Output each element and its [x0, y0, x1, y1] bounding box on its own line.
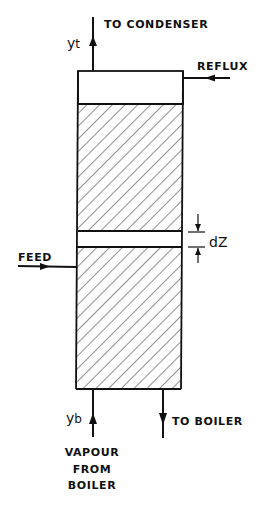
y-top-symbol: yt — [67, 35, 80, 51]
vapour-label-line2: FROM — [73, 463, 112, 476]
arrow-down-icon — [159, 413, 167, 425]
upper-packing — [78, 104, 182, 231]
to-condenser-label: TO CONDENSER — [104, 18, 208, 31]
vapour-label-line1: VAPOUR — [65, 446, 120, 459]
reflux-label: REFLUX — [197, 60, 248, 73]
arrow-up-icon — [195, 248, 201, 255]
feed-label: FEED — [18, 251, 52, 264]
dz-label: dZ — [209, 234, 227, 250]
y-bottom-symbol: yb — [66, 410, 82, 426]
top-vapour-outlet: TO CONDENSER yt — [67, 17, 208, 71]
arrow-down-icon — [195, 224, 201, 231]
bottom-vapour-inlet: yb VAPOUR FROM BOILER — [65, 389, 120, 492]
bottom-liquid-outlet: TO BOILER — [159, 389, 243, 438]
reflux-inlet: REFLUX — [183, 60, 248, 82]
arrow-left-icon — [205, 75, 215, 82]
column-top-space — [78, 71, 183, 104]
column — [76, 71, 183, 389]
differential-element-dz — [78, 231, 182, 247]
vapour-label-line3: BOILER — [68, 479, 116, 492]
arrow-up-icon — [89, 36, 97, 46]
to-boiler-label: TO BOILER — [172, 415, 243, 428]
arrow-up-icon — [89, 413, 97, 424]
lower-packing — [76, 247, 181, 389]
dz-dimension: dZ — [188, 214, 227, 263]
feed-inlet: FEED — [18, 251, 76, 270]
arrow-right-icon — [40, 263, 50, 270]
distillation-column-diagram: TO CONDENSER yt REFLUX FEED dZ yb VAPOUR… — [0, 0, 270, 509]
